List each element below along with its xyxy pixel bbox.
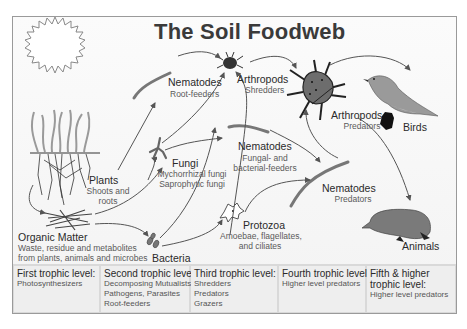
trophic-level-5: Fifth & higher trophic level: Higher lev… [367,266,455,312]
nematodes-fungal-label: Nematodes [238,140,292,152]
trophic-level-2: Second trophic level: Decomposing Mutual… [101,266,189,312]
animals-label: Animals [402,240,439,252]
trophic-item: Decomposing Mutualists [104,279,186,289]
nematodes-predators-sublabel: Predators [328,194,378,204]
trophic-item: Pathogens, Parasites [104,289,186,299]
trophic-item: Higher level predators [282,279,362,289]
nematodes-root-sublabel: Root-feeders [170,89,219,99]
page-title: The Soil Foodweb [154,19,345,45]
trophic-level-3: Third trophic level: Shredders Predators… [191,266,277,312]
trophic-heading: Third trophic level: [194,268,274,279]
organic-matter-sublabel-1: Waste, residue and metabolites [18,243,137,253]
bacteria-icon [146,232,160,248]
nematodes-root-label: Nematodes [168,76,222,88]
trophic-item: Grazers [194,299,274,309]
trophic-heading-line2: trophic level: [370,279,452,290]
fungi-sublabel-2: Saprophytic fungi [150,179,234,189]
fungi-label: Fungi [172,157,198,169]
protozoa-label: Protozoa [243,219,285,231]
fungi-icon [150,138,166,158]
organic-matter-label: Organic Matter [18,231,87,243]
organic-matter-icon [45,210,92,230]
plants-sublabel-2: roots [83,196,133,206]
nematodes-fungal-sublabel-1: Fungal- and [230,153,300,163]
trophic-item: Root-feeders [104,299,186,309]
organic-matter-sublabel-2: from plants, animals and microbes [18,253,147,263]
arthropods-predators-label: Arthropods [331,109,382,121]
fungi-sublabel-1: Mychorrhizal fungi [150,169,234,179]
birds-label: Birds [403,121,427,133]
arthropods-shredders-label: Arthropods [237,73,288,85]
nematodes-predators-label: Nematodes [322,182,376,194]
nematodes-fungal-sublabel-2: bacterial-feeders [230,163,300,173]
plants-sublabel-1: Shoots and [83,186,133,196]
trophic-level-1: First trophic level: Photosynthesizers [14,266,99,312]
trophic-heading: Fourth trophic level: [282,268,362,279]
arthropod-shredder-icon [217,52,243,69]
plants-label: Plants [89,174,118,186]
trophic-item: Predators [194,289,274,299]
arthropods-shredders-sublabel: Shredders [245,85,284,95]
trophic-heading: Second trophic level: [104,268,186,279]
protozoa-sublabel-2: and ciliates [220,241,300,251]
plant-icon [30,110,100,153]
trophic-level-4: Fourth trophic level: Higher level preda… [279,266,365,312]
trophic-heading: First trophic level: [17,268,96,279]
trophic-item: Photosynthesizers [17,279,96,289]
sun-icon [25,17,85,73]
mole-icon [362,209,430,242]
bacteria-label: Bacteria [152,252,191,264]
trophic-heading-line1: Fifth & higher [370,268,452,279]
arthropods-predators-sublabel: Predators [337,121,387,131]
trophic-item: Higher level predators [370,290,452,300]
protozoa-sublabel-1: Amoebae, flagellates, [220,231,300,241]
trophic-item: Shredders [194,279,274,289]
